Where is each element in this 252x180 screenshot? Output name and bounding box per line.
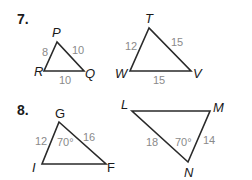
problem-7: 7. P R Q 8 10 10 T W V 12 15 15 — [17, 11, 203, 86]
side-length-gf: 16 — [83, 131, 95, 143]
vertex-label-i: I — [32, 160, 36, 175]
problem-number: 8. — [17, 102, 29, 118]
vertex-label-q: Q — [85, 66, 95, 81]
problem-8: 8. G I F 12 16 70° L M N 18 14 70° — [17, 97, 224, 180]
vertex-label-p: P — [52, 25, 61, 40]
vertex-label-f: F — [107, 160, 115, 175]
vertex-label-v: V — [193, 66, 203, 81]
problem-number: 7. — [17, 11, 29, 27]
vertex-label-t: T — [145, 11, 154, 26]
triangle-outline — [132, 111, 210, 162]
geometry-exercise: 7. P R Q 8 10 10 T W V 12 15 15 8. G I F — [0, 0, 252, 180]
triangle-TVW: T W V 12 15 15 — [115, 11, 203, 86]
angle-g: 70° — [57, 136, 74, 148]
side-length-mn: 14 — [203, 134, 215, 146]
vertex-label-m: M — [213, 100, 224, 115]
triangle-PQR: P R Q 8 10 10 — [34, 25, 95, 86]
side-length-wv: 15 — [153, 74, 165, 86]
side-length-tv: 15 — [171, 36, 183, 48]
vertex-label-g: G — [55, 106, 65, 121]
triangle-outline — [42, 122, 106, 164]
triangle-GIF: G I F 12 16 70° — [32, 106, 115, 175]
triangle-outline — [130, 28, 191, 71]
side-length-rq: 10 — [59, 74, 71, 86]
angle-n: 70° — [175, 136, 192, 148]
side-length-gi: 12 — [35, 135, 47, 147]
diagram-canvas: 7. P R Q 8 10 10 T W V 12 15 15 8. G I F — [0, 0, 252, 180]
side-length-ln: 18 — [146, 136, 158, 148]
vertex-label-w: W — [115, 66, 129, 81]
vertex-label-n: N — [184, 165, 194, 180]
side-length-pr: 8 — [42, 46, 48, 58]
side-length-tw: 12 — [125, 40, 137, 52]
vertex-label-r: R — [34, 64, 43, 79]
triangle-LMN: L M N 18 14 70° — [121, 97, 224, 180]
side-length-pq: 10 — [72, 44, 84, 56]
vertex-label-l: L — [121, 97, 128, 112]
